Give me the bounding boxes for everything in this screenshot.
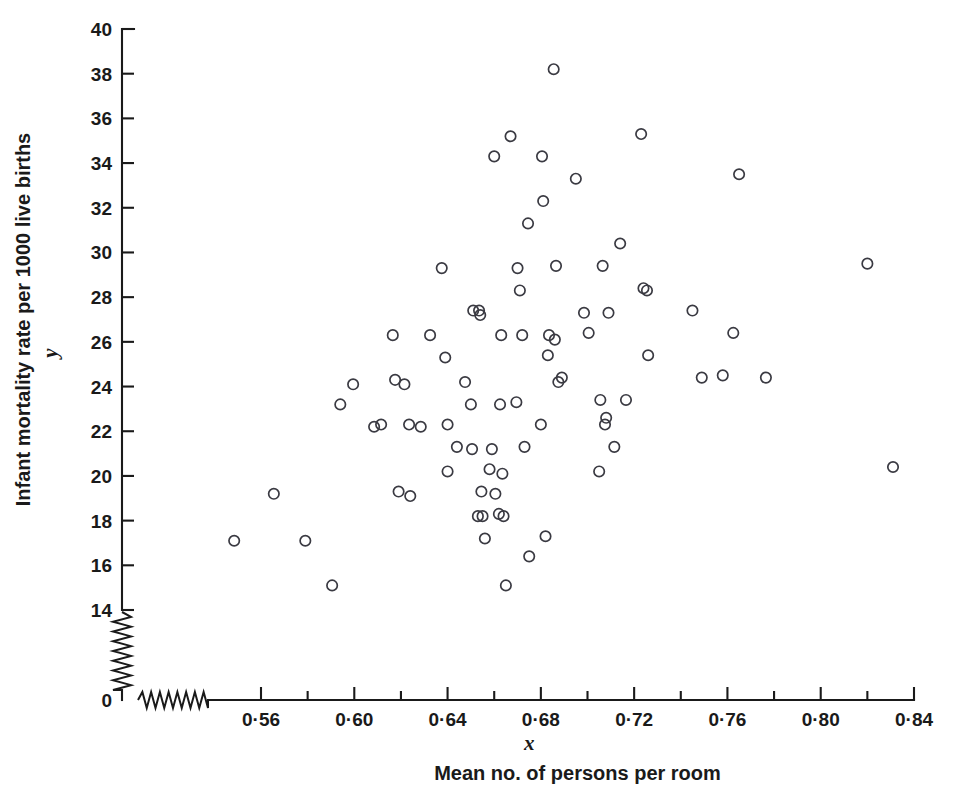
data-point: [425, 330, 435, 340]
x-tick-label-0.8: 0·80: [802, 709, 840, 730]
y-tick-label-14: 14: [91, 600, 113, 621]
y-origin-label: 0: [101, 690, 112, 711]
data-points-group: [229, 64, 898, 591]
x-tick-label-0.72: 0·72: [615, 709, 653, 730]
y-tick-label-38: 38: [91, 64, 112, 85]
data-point: [416, 422, 426, 432]
data-point: [269, 489, 279, 499]
data-point: [300, 536, 310, 546]
data-point: [495, 399, 505, 409]
data-point: [484, 464, 494, 474]
y-axis-ticks: [122, 29, 134, 610]
data-point: [579, 308, 589, 318]
data-point: [511, 397, 521, 407]
x-tick-label-0.68: 0·68: [522, 709, 560, 730]
data-point: [551, 261, 561, 271]
data-point: [369, 422, 379, 432]
x-tick-label-0.84: 0·84: [895, 709, 933, 730]
x-tick-label-0.6: 0·60: [335, 709, 373, 730]
data-point: [601, 413, 611, 423]
y-tick-label-24: 24: [91, 377, 113, 398]
data-point: [583, 328, 593, 338]
data-point: [393, 486, 403, 496]
data-point: [388, 330, 398, 340]
y-axis-line: [122, 29, 134, 610]
y-tick-label-32: 32: [91, 198, 112, 219]
data-point: [348, 379, 358, 389]
data-point: [437, 263, 447, 273]
scatter-plot-figure: 1416182022242628303234363840 0·560·600·6…: [0, 0, 954, 789]
data-point: [497, 468, 507, 478]
data-point: [229, 536, 239, 546]
x-axis-title: Mean no. of persons per room: [434, 762, 721, 784]
data-point: [505, 131, 515, 141]
data-point: [442, 419, 452, 429]
data-point: [761, 372, 771, 382]
data-point: [536, 419, 546, 429]
y-tick-label-30: 30: [91, 242, 112, 263]
data-point: [697, 372, 707, 382]
data-point: [888, 462, 898, 472]
data-point: [487, 444, 497, 454]
axes-group: [113, 29, 914, 708]
data-point: [517, 330, 527, 340]
y-tick-label-36: 36: [91, 108, 112, 129]
y-tick-label-26: 26: [91, 332, 112, 353]
data-point: [476, 486, 486, 496]
data-point: [642, 285, 652, 295]
y-tick-label-20: 20: [91, 466, 112, 487]
data-point: [603, 308, 613, 318]
data-point: [490, 489, 500, 499]
data-point: [643, 350, 653, 360]
y-tick-label-28: 28: [91, 287, 112, 308]
data-point: [571, 174, 581, 184]
x-axis-break-icon: [138, 692, 208, 708]
data-point: [327, 580, 337, 590]
data-point: [594, 466, 604, 476]
data-point: [548, 64, 558, 74]
y-tick-label-18: 18: [91, 511, 112, 532]
data-point: [609, 442, 619, 452]
x-tick-label-0.64: 0·64: [429, 709, 467, 730]
data-point: [442, 466, 452, 476]
y-tick-label-22: 22: [91, 421, 112, 442]
y-tick-label-34: 34: [91, 153, 113, 174]
data-point: [540, 531, 550, 541]
y-tick-label-40: 40: [91, 19, 112, 40]
data-point: [687, 305, 697, 315]
data-point: [524, 551, 534, 561]
data-point: [480, 533, 490, 543]
data-point: [523, 218, 533, 228]
data-point: [496, 330, 506, 340]
data-point: [718, 370, 728, 380]
data-point: [515, 285, 525, 295]
data-point: [404, 419, 414, 429]
data-point: [734, 169, 744, 179]
data-point: [501, 580, 511, 590]
data-point: [537, 151, 547, 161]
data-point: [519, 442, 529, 452]
data-point: [467, 444, 477, 454]
plot-canvas: 1416182022242628303234363840 0·560·600·6…: [0, 0, 954, 789]
data-point: [466, 399, 476, 409]
data-point: [595, 395, 605, 405]
y-tick-label-16: 16: [91, 555, 112, 576]
data-point: [512, 263, 522, 273]
x-axis-minor-ticks: [308, 691, 868, 700]
x-tick-label-0.76: 0·76: [708, 709, 746, 730]
data-point: [597, 261, 607, 271]
data-point: [399, 379, 409, 389]
x-axis-variable-symbol: x: [523, 731, 535, 755]
data-point: [621, 395, 631, 405]
x-axis-tick-labels: 0·560·600·640·680·720·760·800·84: [242, 709, 933, 730]
y-axis-tick-labels: 1416182022242628303234363840: [91, 19, 113, 621]
data-point: [538, 196, 548, 206]
y-axis-title: Infant mortality rate per 1000 live birt…: [12, 133, 34, 506]
data-point: [489, 151, 499, 161]
data-point: [452, 442, 462, 452]
data-point: [335, 399, 345, 409]
data-point: [615, 238, 625, 248]
data-point: [405, 491, 415, 501]
data-point: [728, 328, 738, 338]
data-point: [543, 350, 553, 360]
